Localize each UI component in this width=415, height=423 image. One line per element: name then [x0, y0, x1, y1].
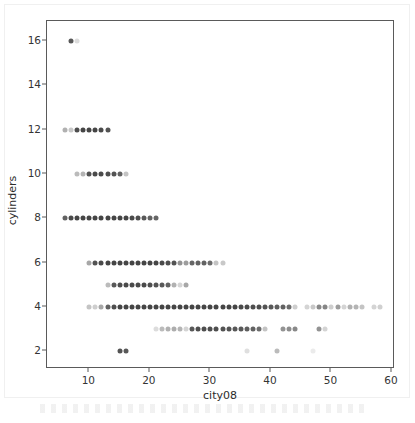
data-point [244, 349, 249, 354]
data-point [135, 216, 140, 221]
data-point [141, 282, 146, 287]
data-point [287, 327, 292, 332]
data-point [81, 171, 86, 176]
x-axis-label: city08 [46, 389, 394, 402]
scatter-plot-figure: 246810121416 102030405060 city08 cylinde… [0, 0, 415, 423]
data-point [353, 304, 358, 309]
data-point [153, 282, 158, 287]
data-point [99, 260, 104, 265]
data-point [93, 171, 98, 176]
data-point [105, 171, 110, 176]
data-point [87, 260, 92, 265]
data-point [287, 304, 292, 309]
data-point [311, 349, 316, 354]
data-point [281, 327, 286, 332]
data-point [178, 260, 183, 265]
data-point [141, 260, 146, 265]
y-tick-mark [42, 39, 46, 40]
data-point [329, 304, 334, 309]
data-point [105, 282, 110, 287]
data-point [117, 171, 122, 176]
data-point [232, 327, 237, 332]
x-tick-label: 10 [82, 374, 95, 386]
data-point [190, 304, 195, 309]
data-point [141, 304, 146, 309]
data-point [214, 327, 219, 332]
data-point [208, 304, 213, 309]
data-point [117, 282, 122, 287]
y-tick-label: 4 [34, 300, 41, 312]
y-tick-label: 8 [34, 211, 41, 223]
data-point [178, 327, 183, 332]
data-point [75, 171, 80, 176]
data-point [69, 127, 74, 132]
data-point [123, 216, 128, 221]
data-point [93, 260, 98, 265]
data-point [262, 304, 267, 309]
x-axis-tick-labels: 102030405060 [0, 374, 415, 390]
data-point [87, 216, 92, 221]
data-point [220, 327, 225, 332]
data-point [69, 216, 74, 221]
data-point [208, 260, 213, 265]
data-point [93, 216, 98, 221]
x-tick-mark [148, 368, 149, 372]
x-tick-label: 20 [142, 374, 155, 386]
data-point [184, 304, 189, 309]
data-point [123, 349, 128, 354]
data-points-layer [47, 21, 393, 367]
data-point [129, 216, 134, 221]
data-point [274, 349, 279, 354]
data-point [256, 304, 261, 309]
plot-area [46, 20, 394, 368]
data-point [184, 260, 189, 265]
y-tick-label: 2 [34, 344, 41, 356]
data-point [123, 171, 128, 176]
data-point [159, 260, 164, 265]
data-point [75, 216, 80, 221]
y-tick-mark [42, 305, 46, 306]
data-point [117, 349, 122, 354]
data-point [281, 304, 286, 309]
data-point [75, 127, 80, 132]
data-point [274, 304, 279, 309]
y-tick-mark [42, 172, 46, 173]
y-tick-mark [42, 217, 46, 218]
data-point [202, 260, 207, 265]
data-point [323, 327, 328, 332]
data-point [117, 260, 122, 265]
data-point [153, 304, 158, 309]
caption-placeholder [40, 404, 370, 413]
data-point [196, 304, 201, 309]
data-point [129, 260, 134, 265]
data-point [111, 304, 116, 309]
data-point [256, 327, 261, 332]
data-point [153, 260, 158, 265]
y-tick-label: 12 [28, 123, 41, 135]
data-point [196, 327, 201, 332]
data-point [202, 304, 207, 309]
data-point [371, 304, 376, 309]
y-tick-mark [42, 128, 46, 129]
data-point [268, 304, 273, 309]
data-point [317, 327, 322, 332]
data-point [250, 327, 255, 332]
data-point [172, 260, 177, 265]
data-point [117, 216, 122, 221]
x-axis-tick-marks [0, 368, 415, 373]
data-point [129, 304, 134, 309]
data-point [111, 282, 116, 287]
data-point [208, 327, 213, 332]
x-tick-mark [269, 368, 270, 372]
data-point [166, 327, 171, 332]
data-point [341, 304, 346, 309]
data-point [105, 260, 110, 265]
data-point [123, 260, 128, 265]
data-point [153, 216, 158, 221]
data-point [105, 216, 110, 221]
data-point [63, 216, 68, 221]
data-point [93, 304, 98, 309]
y-tick-mark [42, 84, 46, 85]
data-point [335, 304, 340, 309]
data-point [111, 171, 116, 176]
